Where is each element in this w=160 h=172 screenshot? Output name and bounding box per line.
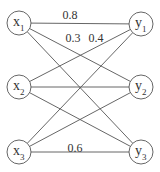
node-y2: y2 <box>129 75 153 99</box>
node-label: x <box>13 14 20 29</box>
node-label: y <box>135 78 142 93</box>
node-x1: x1 <box>7 11 31 35</box>
edge-weights: 0.80.30.40.6 <box>63 8 104 155</box>
edge-x1-y1 <box>31 23 129 24</box>
node-y1: y1 <box>129 12 153 36</box>
edge-weight-label: 0.3 <box>66 31 81 45</box>
node-subscript: 3 <box>20 152 25 162</box>
node-subscript: 2 <box>142 87 147 97</box>
edge-weight-label: 0.4 <box>89 31 104 45</box>
node-label: x <box>13 78 20 93</box>
node-x3: x3 <box>7 140 31 164</box>
node-label: y <box>135 15 142 30</box>
node-subscript: 3 <box>142 152 147 162</box>
node-label: x <box>13 143 20 158</box>
edge-weight-label: 0.8 <box>63 8 78 22</box>
node-x2: x2 <box>7 75 31 99</box>
node-subscript: 1 <box>142 24 147 34</box>
node-subscript: 1 <box>20 23 25 33</box>
node-y3: y3 <box>129 140 153 164</box>
bipartite-graph: x1x2x3y1y2y3 0.80.30.40.6 <box>0 0 160 172</box>
node-subscript: 2 <box>20 87 25 97</box>
node-label: y <box>135 143 142 158</box>
edge-weight-label: 0.6 <box>68 141 83 155</box>
